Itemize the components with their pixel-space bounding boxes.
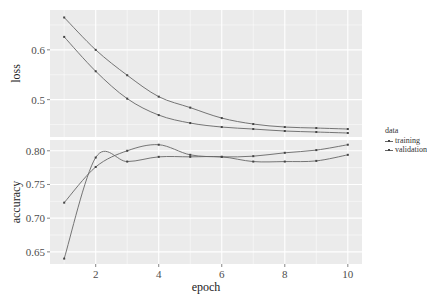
data-point <box>126 74 128 76</box>
y-tick-label: 0.6 <box>31 44 45 56</box>
data-point <box>347 154 349 156</box>
data-point <box>189 156 191 158</box>
data-point <box>221 156 223 158</box>
x-axis-title: epoch <box>192 280 221 294</box>
y-axis-title: loss <box>9 64 23 83</box>
data-point <box>284 152 286 154</box>
panel-background <box>50 140 362 264</box>
data-point <box>284 130 286 132</box>
y-axis-title: accuracy <box>9 181 23 224</box>
data-point <box>95 70 97 72</box>
data-point <box>189 122 191 124</box>
data-point <box>158 114 160 116</box>
data-point <box>221 126 223 128</box>
data-point <box>126 150 128 152</box>
data-point <box>126 98 128 100</box>
x-tick-label: 8 <box>282 268 288 280</box>
y-tick-label: 0.80 <box>26 145 46 157</box>
y-tick-label: 0.65 <box>26 246 46 258</box>
data-point <box>284 126 286 128</box>
y-tick-label: 0.75 <box>26 178 46 190</box>
data-point <box>221 117 223 119</box>
panel-background <box>50 10 362 137</box>
data-point <box>252 123 254 125</box>
data-point <box>63 36 65 38</box>
data-point <box>315 149 317 151</box>
y-tick-label: 0.5 <box>31 94 45 106</box>
data-point <box>95 166 97 168</box>
legend: data training validation <box>385 126 427 154</box>
legend-item-training: training <box>385 136 427 145</box>
data-point <box>158 156 160 158</box>
data-point <box>315 127 317 129</box>
data-point <box>347 144 349 146</box>
panel-accuracy: 0.650.700.750.80accuracy <box>9 140 362 264</box>
legend-key-icon <box>385 137 393 145</box>
data-point <box>158 144 160 146</box>
data-point <box>126 161 128 163</box>
data-point <box>95 157 97 159</box>
legend-label: training <box>395 136 420 145</box>
legend-label: validation <box>395 145 427 154</box>
chart-canvas: 0.50.6loss0.650.700.750.80accuracy246810… <box>0 0 427 302</box>
data-point <box>252 161 254 163</box>
data-point <box>63 258 65 260</box>
data-point <box>347 132 349 134</box>
data-point <box>189 154 191 156</box>
x-tick-label: 2 <box>93 268 99 280</box>
y-tick-label: 0.70 <box>26 212 46 224</box>
data-point <box>158 96 160 98</box>
data-point <box>284 161 286 163</box>
legend-item-validation: validation <box>385 145 427 154</box>
x-tick-label: 6 <box>219 268 225 280</box>
data-point <box>63 202 65 204</box>
data-point <box>315 131 317 133</box>
data-point <box>95 49 97 51</box>
data-point <box>189 107 191 109</box>
panel-loss: 0.50.6loss <box>9 10 362 137</box>
data-point <box>63 16 65 18</box>
legend-key-icon <box>385 146 393 154</box>
x-tick-label: 10 <box>342 268 354 280</box>
data-point <box>252 155 254 157</box>
data-point <box>347 128 349 130</box>
data-point <box>252 128 254 130</box>
legend-title: data <box>385 126 427 135</box>
data-point <box>315 160 317 162</box>
x-tick-label: 4 <box>156 268 162 280</box>
